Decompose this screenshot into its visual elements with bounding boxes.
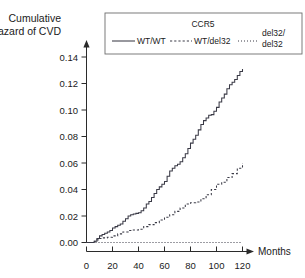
legend-label-wt-del32: WT/del32	[194, 36, 231, 46]
y-tick-label: 0.04	[60, 184, 79, 195]
legend-label-del32-del32-line2: del32	[262, 39, 283, 49]
legend-title: CCR5	[191, 19, 214, 29]
x-tick-label: 120	[235, 260, 251, 271]
y-tick-label: 0.06	[60, 158, 79, 169]
y-tick-label: 0.08	[60, 131, 79, 142]
y-axis-title: Cumulative Hazard of CVD	[0, 12, 61, 37]
x-tick-label: 20	[107, 260, 118, 271]
legend-label-del32-del32-line1: del32/	[262, 28, 286, 38]
y-tick-label: 0.12	[60, 78, 79, 89]
x-tick-label: 40	[133, 260, 144, 271]
cumulative-hazard-chart: Cumulative Hazard of CVD CCR5 WT/WT WT/d…	[0, 0, 305, 278]
x-tick-label: 60	[159, 260, 170, 271]
x-tick-label: 100	[209, 260, 225, 271]
x-tick-label: 0	[84, 260, 89, 271]
x-axis-title: Months	[258, 246, 291, 257]
y-tick-label: 0.02	[60, 211, 79, 222]
legend-label-wt-wt: WT/WT	[137, 36, 166, 46]
y-axis-title-line1: Cumulative	[8, 12, 61, 24]
x-tick-label: 80	[185, 260, 196, 271]
legend: CCR5 WT/WT WT/del32 del32/ del32	[105, 13, 302, 54]
y-tick-label: 0.14	[60, 52, 79, 63]
y-tick-label: 0.10	[60, 105, 79, 116]
y-axis-title-line2: Hazard of CVD	[0, 25, 61, 37]
y-tick-label: 0.00	[60, 237, 79, 248]
chart-svg: Cumulative Hazard of CVD CCR5 WT/WT WT/d…	[0, 0, 305, 278]
